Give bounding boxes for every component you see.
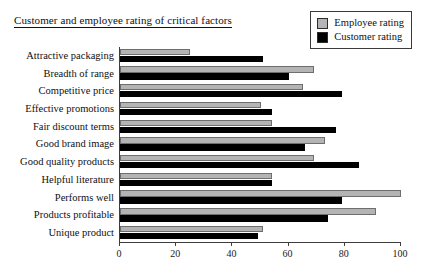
category-label: Products profitable [34,209,114,221]
category-label: Performs well [55,192,114,204]
category-label: Helpful literature [41,174,114,186]
bar-customer-rating [120,73,289,79]
x-axis-tick [344,242,345,246]
bar-group: Attractive packaging [119,47,400,65]
x-axis-line [119,242,401,243]
x-axis-tick [400,242,401,246]
bar-employee-rating [120,66,314,72]
bar-employee-rating [120,120,272,126]
bar-customer-rating [120,197,342,203]
bar-customer-rating [120,109,272,115]
bar-employee-rating [120,84,303,90]
chart-title: Customer and employee rating of critical… [14,14,232,28]
bar-group: Good quality products [119,153,400,171]
category-label: Fair discount terms [33,121,114,133]
x-axis-tick-label: 0 [117,248,122,259]
x-axis-tick-label: 80 [339,248,349,259]
legend-label-customer-rating: Customer rating [334,31,402,43]
x-axis-tick [119,242,120,246]
bar-group: Competitive price [119,82,400,100]
customer-rating-swatch [317,32,328,43]
x-axis-tick [288,242,289,246]
category-label: Competitive price [38,85,114,97]
bar-group: Products profitable [119,207,400,225]
bar-customer-rating [120,215,328,221]
employee-rating-swatch [317,18,328,29]
bar-employee-rating [120,49,190,55]
category-label: Breadth of range [43,68,114,80]
bar-employee-rating [120,208,376,214]
x-axis-tick [231,242,232,246]
bar-group: Performs well [119,189,400,207]
bar-group: Helpful literature [119,171,400,189]
category-label: Attractive packaging [26,50,114,62]
bar-group: Breadth of range [119,65,400,83]
x-axis-tick [175,242,176,246]
category-label: Good quality products [20,156,114,168]
bar-employee-rating [120,226,263,232]
bar-customer-rating [120,233,258,239]
category-label: Unique product [48,227,114,239]
x-axis-tick-label: 100 [393,248,408,259]
legend-label-employee-rating: Employee rating [334,17,404,29]
bar-employee-rating [120,137,325,143]
bar-group: Effective promotions [119,100,400,118]
bar-customer-rating [120,144,305,150]
bar-employee-rating [120,102,261,108]
bar-customer-rating [120,162,359,168]
x-axis-tick-label: 40 [226,248,236,259]
bar-customer-rating [120,91,342,97]
bar-group: Good brand image [119,136,400,154]
bar-group: Unique product [119,224,400,242]
bar-customer-rating [120,127,336,133]
bar-customer-rating [120,56,263,62]
x-axis-tick-label: 20 [170,248,180,259]
category-label: Good brand image [36,138,114,150]
bar-customer-rating [120,180,272,186]
bar-employee-rating [120,173,272,179]
bar-employee-rating [120,190,401,196]
category-label: Effective promotions [25,103,114,115]
bar-group: Fair discount terms [119,118,400,136]
legend-item-customer-rating: Customer rating [317,30,404,44]
bar-chart: Customer and employee rating of critical… [0,0,425,274]
chart-legend: Employee rating Customer rating [310,11,412,49]
plot-area: 020406080100 Attractive packagingBreadth… [119,47,400,242]
x-axis-tick-label: 60 [283,248,293,259]
bar-employee-rating [120,155,314,161]
legend-item-employee-rating: Employee rating [317,16,404,30]
